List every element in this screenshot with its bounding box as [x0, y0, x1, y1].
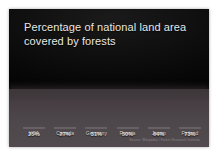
- bar-group: 25% USA 27% Canada 31% Germany 50%: [23, 27, 201, 127]
- category-label-finland: Finland: [171, 130, 209, 136]
- slide-frame: Percentage of national land area covered…: [9, 9, 209, 147]
- source-note: Source: Wikipedia / Forest Research Inst…: [129, 138, 200, 142]
- bar-chart: 25% USA 27% Canada 31% Germany 50%: [23, 27, 201, 127]
